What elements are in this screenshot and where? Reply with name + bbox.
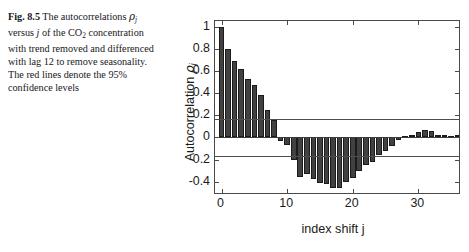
x-axis-title: index shift j <box>204 222 462 236</box>
y-axis-tick-mark <box>455 115 459 116</box>
acf-bar <box>271 120 277 138</box>
acf-bar <box>389 137 395 146</box>
y-axis-tick-mark <box>215 137 219 138</box>
y-axis-tick-label: 0.6 <box>154 63 210 77</box>
x-axis-tick-mark <box>353 21 354 25</box>
y-axis-tick-label: 0 <box>154 129 210 143</box>
y-axis-tick-labels: 10.80.60.40.20-0.2-0.4 <box>152 20 210 194</box>
y-axis-tick-label: -0.2 <box>154 152 210 166</box>
y-axis-tick-label: 0.8 <box>154 41 210 55</box>
x-axis-tick-mark <box>287 189 288 193</box>
y-axis-tick-label: 0.2 <box>154 107 210 121</box>
acf-bar <box>363 137 369 165</box>
x-axis-tick-label: 30 <box>397 196 437 210</box>
y-axis-tick-mark <box>455 160 459 161</box>
zero-baseline <box>215 137 459 138</box>
acf-bar <box>232 61 238 137</box>
acf-chart: Autocorrelation ρj 10.80.60.40.20-0.2-0.… <box>152 4 467 250</box>
x-axis-tick-label: 20 <box>332 196 372 210</box>
acf-bar <box>245 79 251 138</box>
acf-bar <box>265 110 271 138</box>
y-axis-tick-mark <box>215 93 219 94</box>
acf-bar <box>429 131 435 138</box>
acf-bar <box>225 49 231 138</box>
y-axis-tick-mark <box>215 71 219 72</box>
x-axis-tick-mark <box>418 21 419 25</box>
acf-bar <box>350 137 356 178</box>
acf-bar <box>356 137 362 170</box>
caption-text-1: The autocorrelations <box>42 11 129 22</box>
acf-bar <box>317 137 323 182</box>
acf-bar <box>297 137 303 177</box>
y-axis-tick-mark <box>455 93 459 94</box>
acf-bar <box>383 137 389 150</box>
acf-bar <box>284 137 290 145</box>
y-axis-tick-label: 0.4 <box>154 85 210 99</box>
y-axis-tick-mark <box>455 182 459 183</box>
y-axis-tick-label: 1 <box>154 19 210 33</box>
x-axis-tick-mark <box>222 21 223 25</box>
acf-bar <box>376 137 382 155</box>
acf-bar <box>258 95 264 137</box>
y-axis-tick-mark <box>215 49 219 50</box>
acf-bar <box>343 137 349 181</box>
y-axis-tick-mark <box>455 27 459 28</box>
figure-caption: Fig. 8.5 The autocorrelations ρj versus … <box>8 10 154 94</box>
x-axis-tick-labels: 0102030 <box>214 196 460 214</box>
acf-bar <box>337 137 343 188</box>
y-axis-tick-mark <box>455 71 459 72</box>
caption-text-3: of the CO <box>39 27 82 38</box>
y-axis-tick-mark <box>215 27 219 28</box>
acf-bar <box>330 137 336 188</box>
upper-confidence-line <box>215 119 459 120</box>
caption-text-2: versus <box>8 27 37 38</box>
x-axis-tick-mark <box>287 21 288 25</box>
acf-bar <box>370 137 376 161</box>
x-axis-tick-label: 10 <box>266 196 306 210</box>
x-axis-tick-mark <box>353 189 354 193</box>
lower-confidence-line <box>215 156 459 157</box>
x-axis-tick-mark <box>222 189 223 193</box>
acf-bar <box>219 27 225 138</box>
plot-area <box>214 20 460 194</box>
x-axis-tick-label: 0 <box>201 196 241 210</box>
acf-bar <box>311 137 317 179</box>
y-axis-tick-mark <box>215 160 219 161</box>
acf-bar <box>422 130 428 138</box>
figure-number: Fig. 8.5 <box>8 11 40 22</box>
caption-rho-subscript: j <box>135 15 137 24</box>
y-axis-tick-mark <box>215 115 219 116</box>
y-axis-tick-mark <box>455 137 459 138</box>
y-axis-tick-mark <box>215 182 219 183</box>
x-axis-tick-mark <box>418 189 419 193</box>
y-axis-tick-mark <box>455 49 459 50</box>
y-axis-tick-label: -0.4 <box>154 174 210 188</box>
acf-bar <box>324 137 330 184</box>
plot-inner <box>215 21 459 193</box>
acf-bar <box>252 85 258 137</box>
acf-bar <box>238 69 244 138</box>
